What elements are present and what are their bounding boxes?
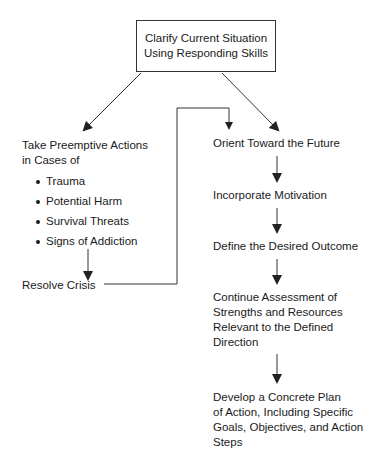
step-continue-assessment-line-1: Continue Assessment of [213, 290, 337, 305]
preemptive-heading-line-2: in Cases of [22, 153, 80, 168]
step-define-outcome: Define the Desired Outcome [213, 239, 358, 254]
bullet-icon [36, 240, 40, 244]
step-continue-assessment-line-3: Relevant to the Defined [213, 320, 333, 335]
arrow-box-to-orient [222, 73, 276, 128]
top-box-clarify: Clarify Current Situation Using Respondi… [136, 20, 276, 72]
step-develop-plan-line-2: of Action, Including Specific [213, 405, 353, 420]
resolve-crisis: Resolve Crisis [22, 278, 96, 293]
bullet-survival-threats: Survival Threats [46, 214, 129, 229]
step-incorporate-motivation: Incorporate Motivation [213, 188, 327, 203]
bullet-icon [36, 200, 40, 204]
step-continue-assessment-line-4: Direction [213, 335, 258, 350]
step-continue-assessment-line-2: Strengths and Resources [213, 305, 343, 320]
arrow-box-to-preemptive [86, 73, 141, 128]
step-develop-plan-line-3: Goals, Objectives, and Action [213, 420, 363, 435]
bullet-signs-of-addiction: Signs of Addiction [46, 234, 137, 249]
step-develop-plan-line-1: Develop a Concrete Plan [213, 390, 341, 405]
arrowhead-orient [225, 122, 233, 130]
step-orient-future: Orient Toward the Future [213, 136, 340, 151]
top-box-line-1: Clarify Current Situation [145, 31, 267, 46]
preemptive-heading-line-1: Take Preemptive Actions [22, 138, 148, 153]
top-box-line-2: Using Responding Skills [144, 46, 268, 61]
step-develop-plan-line-4: Steps [213, 435, 242, 450]
bullet-trauma: Trauma [46, 174, 85, 189]
bullet-icon [36, 180, 40, 184]
connector-resolve-to-orient [104, 108, 229, 284]
bullet-potential-harm: Potential Harm [46, 194, 122, 209]
bullet-icon [36, 220, 40, 224]
